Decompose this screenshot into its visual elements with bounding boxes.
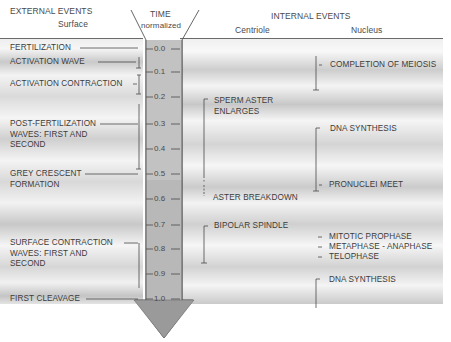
event-telophase: TELOPHASE xyxy=(329,252,379,263)
event-sperm-aster-enlarges: SPERM ASTER ENLARGES xyxy=(214,96,273,117)
event-grey-crescent: GREY CRESCENT FORMATION xyxy=(10,169,82,190)
event-surface-contraction-waves: SURFACE CONTRACTION WAVES: FIRST AND SEC… xyxy=(10,238,113,270)
event-bipolar-spindle: BIPOLAR SPINDLE xyxy=(214,221,288,232)
event-dna-synthesis-1: DNA SYNTHESIS xyxy=(330,124,397,135)
event-metaphase-anaphase: METAPHASE - ANAPHASE xyxy=(329,242,432,253)
event-dna-synthesis-2: DNA SYNTHESIS xyxy=(329,275,396,286)
event-pronuclei-meet: PRONUCLEI MEET xyxy=(329,180,403,191)
event-activation-contraction: ACTIVATION CONTRACTION xyxy=(10,79,122,90)
event-post-fertilization-waves: POST-FERTILIZATION WAVES: FIRST AND SECO… xyxy=(10,119,96,151)
event-first-cleavage: FIRST CLEAVAGE xyxy=(10,294,80,305)
event-fertilization: FERTILIZATION xyxy=(10,43,71,54)
event-aster-breakdown: ASTER BREAKDOWN xyxy=(213,193,298,204)
event-activation-wave: ACTIVATION WAVE xyxy=(10,57,85,68)
event-mitotic-prophase: MITOTIC PROPHASE xyxy=(329,232,412,243)
event-completion-of-meiosis: COMPLETION OF MEIOSIS xyxy=(330,60,436,71)
